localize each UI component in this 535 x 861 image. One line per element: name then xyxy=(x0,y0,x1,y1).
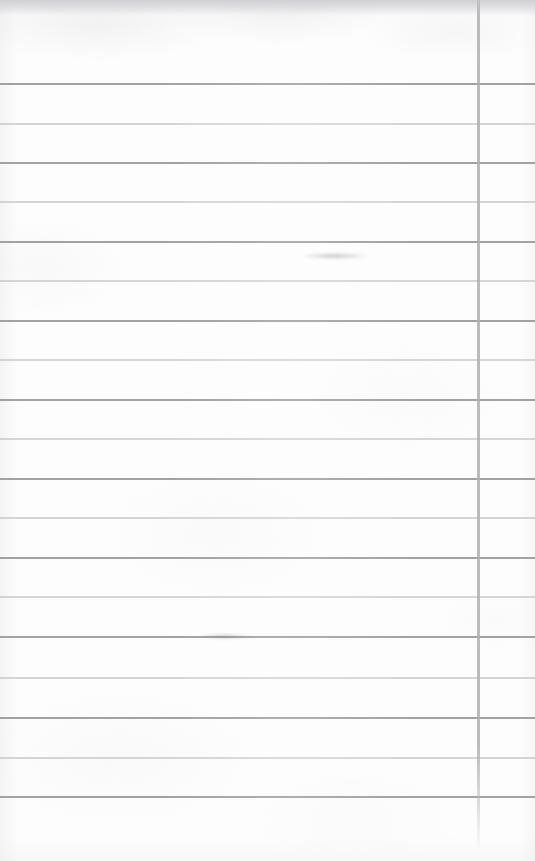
paper-background xyxy=(0,0,535,861)
scanned-page xyxy=(0,0,535,861)
